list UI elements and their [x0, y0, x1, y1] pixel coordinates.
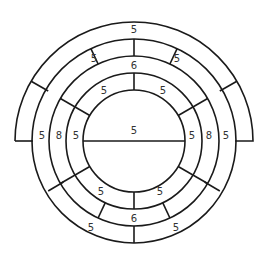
- label-ring1-top-left: 5: [101, 85, 107, 96]
- label-right-ring1: 5: [189, 130, 195, 141]
- label-left-ring2: 8: [56, 130, 62, 141]
- divider-r4-lower-left: [48, 182, 63, 191]
- divider-r3r4-lower-left: [98, 203, 105, 218]
- label-ring2-bottom: 6: [131, 213, 137, 224]
- label-ring3-top-right: 5: [174, 53, 180, 64]
- label-left-ring1: 5: [73, 130, 79, 141]
- divider-r1r2-upper-right: [178, 107, 193, 116]
- label-left-outer: 5: [39, 130, 45, 141]
- label-outer-top: 5: [131, 24, 137, 35]
- label-ring3-bottom-left: 5: [88, 222, 94, 233]
- divider-r1r2-lower-left: [75, 167, 90, 176]
- label-ring2-top: 6: [131, 60, 137, 71]
- divider-r4r5-upper-right: [220, 82, 237, 92]
- divider-r3r4-lower-right: [163, 203, 170, 218]
- label-ring1-top-right: 5: [160, 85, 166, 96]
- label-center: 5: [131, 125, 137, 136]
- divider-r2r3-upper-left: [60, 99, 75, 108]
- divider-r4-lower-right: [205, 182, 220, 191]
- label-ring3-bottom-right: 5: [173, 222, 179, 233]
- divider-r1r2-upper-left: [75, 107, 90, 116]
- divider-r1r2-lower-right: [178, 167, 193, 176]
- divider-r4r5-upper-left: [32, 82, 49, 92]
- divider-r2r3-upper-right: [193, 99, 208, 108]
- label-ring1-bottom-left: 5: [98, 186, 104, 197]
- ring-diagram: 5 5 5 6 5 5 5 5 8 5 5 8 5 5 5 6 5 5: [0, 0, 269, 259]
- label-ring1-bottom-right: 5: [157, 186, 163, 197]
- label-right-ring2: 8: [206, 130, 212, 141]
- label-right-outer: 5: [223, 130, 229, 141]
- label-ring3-top-left: 5: [91, 53, 97, 64]
